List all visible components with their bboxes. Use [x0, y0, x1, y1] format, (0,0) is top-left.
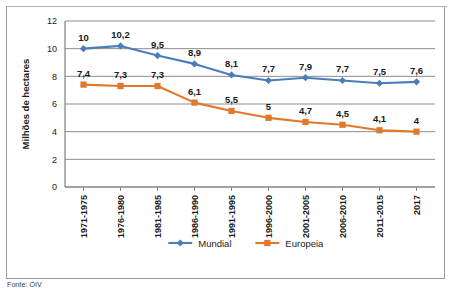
y-tick-label: 8	[52, 72, 57, 82]
y-tick-label: 2	[52, 155, 57, 165]
data-label: 8,9	[188, 47, 201, 58]
data-point-marker	[339, 77, 346, 84]
x-tick-label: 1991-1995	[227, 195, 237, 238]
data-label: 9,5	[151, 39, 165, 50]
x-tick-label: 1996-2000	[264, 195, 274, 238]
data-label: 8,1	[225, 58, 239, 69]
series-line	[84, 46, 417, 83]
data-label: 4,5	[336, 108, 350, 119]
x-tick-label: 2017	[412, 195, 422, 215]
data-label: 10,2	[111, 29, 130, 40]
data-point-marker	[154, 52, 161, 59]
series-line	[84, 85, 417, 132]
data-label: 4,1	[373, 113, 387, 124]
data-point-marker	[228, 108, 234, 114]
legend-label: Mundial	[198, 238, 231, 249]
data-label: 10	[78, 32, 89, 43]
data-point-marker	[191, 60, 198, 67]
chart-legend: MundialEuropeia	[168, 238, 324, 249]
data-label: 7,3	[114, 69, 127, 80]
y-gridlines: 024681012	[47, 16, 435, 192]
data-point-marker	[191, 100, 197, 106]
data-point-marker	[302, 74, 309, 81]
data-point-marker	[413, 129, 419, 135]
data-label: 7,9	[299, 61, 312, 72]
data-label: 5	[266, 101, 272, 112]
x-tick-label: 2006-2010	[338, 195, 348, 238]
x-axis-labels: 1971-19751976-19801981-19851986-19901991…	[79, 187, 422, 238]
legend-item-europeia[interactable]: Europeia	[255, 238, 324, 249]
legend-marker	[177, 239, 184, 246]
data-label: 7,7	[262, 63, 275, 74]
data-point-marker	[154, 83, 160, 89]
chart-frame: 024681012Milhões de hectares1971-1975197…	[6, 7, 445, 279]
source-caption: Fonte: OIV	[7, 281, 42, 288]
x-tick-label: 1986-1990	[190, 195, 200, 238]
data-point-marker	[265, 115, 271, 121]
data-point-marker	[302, 119, 308, 125]
legend-marker	[264, 240, 270, 246]
x-tick-label: 1981-1985	[153, 195, 163, 238]
data-label: 7,4	[77, 68, 91, 79]
data-point-marker	[376, 80, 383, 87]
series-mundial: 1010,29,58,98,17,77,97,77,57,6	[78, 29, 423, 87]
chart-container: 024681012Milhões de hectares1971-1975197…	[0, 0, 453, 292]
data-label: 6,1	[188, 86, 202, 97]
data-label: 4	[414, 115, 420, 126]
x-tick-label: 2001-2005	[301, 195, 311, 238]
y-tick-label: 10	[47, 44, 57, 54]
data-point-marker	[80, 45, 87, 52]
data-label: 7,5	[373, 66, 387, 77]
data-label: 7,6	[410, 65, 423, 76]
data-label: 4,7	[299, 105, 312, 116]
y-tick-label: 6	[52, 99, 57, 109]
y-tick-label: 4	[52, 127, 57, 137]
data-point-marker	[413, 78, 420, 85]
data-point-marker	[265, 77, 272, 84]
line-chart-plot: 024681012Milhões de hectares1971-1975197…	[7, 7, 446, 279]
x-tick-label: 1976-1980	[116, 195, 126, 238]
data-label: 7,7	[336, 63, 349, 74]
y-tick-label: 12	[47, 16, 57, 26]
legend-item-mundial[interactable]: Mundial	[168, 238, 231, 249]
data-label: 5,5	[225, 94, 239, 105]
legend-label: Europeia	[285, 238, 324, 249]
data-point-marker	[80, 82, 86, 88]
data-point-marker	[117, 83, 123, 89]
data-point-marker	[376, 127, 382, 133]
x-tick-label: 2011-2015	[375, 195, 385, 238]
x-tick-label: 1971-1975	[79, 195, 89, 238]
y-tick-label: 0	[52, 182, 57, 192]
y-axis-title: Milhões de hectares	[20, 59, 31, 150]
data-point-marker	[339, 122, 345, 128]
data-point-marker	[228, 71, 235, 78]
data-label: 7,3	[151, 69, 164, 80]
